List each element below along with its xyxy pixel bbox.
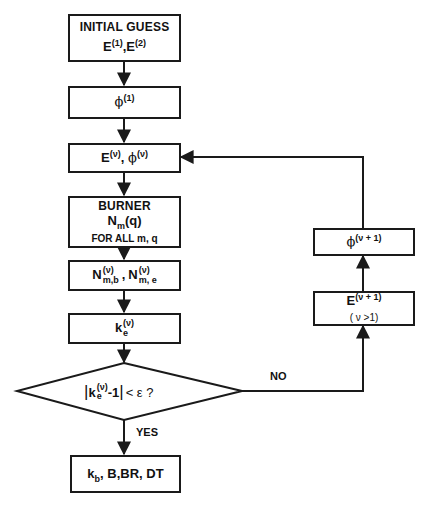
k-e-label: k (ν) e	[115, 319, 134, 338]
e2-base: E	[126, 39, 135, 54]
phi-sup: (ν + 1)	[355, 233, 381, 243]
compare: < ε ?	[126, 385, 154, 400]
burner-note: FOR ALL m, q	[91, 233, 157, 244]
k-indices: (ν) e	[97, 383, 108, 402]
k-sub: e	[123, 329, 134, 338]
e2-sup: (2)	[135, 38, 146, 48]
node-phi-1: ϕ(1)	[68, 86, 181, 119]
burner-n: Nm(q)	[107, 214, 141, 228]
n-sub: m	[117, 221, 125, 231]
n2-sub: m, e	[139, 276, 157, 285]
e-base: E	[101, 150, 110, 165]
node-result: kb, B,BR, DT	[70, 455, 181, 493]
result-rest: , B,BR, DT	[100, 466, 164, 481]
node-n-values: N (ν) m,b , N (ν) m, e	[68, 260, 181, 291]
e-base: E	[347, 293, 356, 308]
initial-guess-values: E(1),E(2)	[103, 40, 146, 54]
k-base: k	[115, 321, 122, 335]
phi-sup: (1)	[123, 93, 134, 103]
sep: ,	[122, 268, 126, 282]
arrow-no-branch	[242, 326, 363, 391]
n-values-label: N (ν) m,b , N (ν) m, e	[92, 266, 156, 285]
k-base: k	[88, 385, 95, 400]
arrow-feedback-loop	[181, 157, 363, 228]
n-base: N	[107, 213, 116, 228]
result-label: kb, B,BR, DT	[87, 467, 163, 481]
k-sub: e	[97, 392, 108, 401]
phi-1-label: ϕ(1)	[115, 95, 135, 109]
node-burner: BURNER Nm(q) FOR ALL m, q	[68, 196, 181, 248]
e-next-label: E(ν + 1)	[347, 294, 382, 308]
sep: ,	[121, 150, 125, 165]
initial-guess-title: INITIAL GUESS	[80, 21, 170, 34]
e-phi-nu-label: E(ν), ϕ(ν)	[101, 151, 148, 165]
node-e-phi-nu: E(ν), ϕ(ν)	[68, 143, 181, 173]
n2-base: N	[128, 268, 137, 282]
decision-condition: | k (ν) e -1 | < ε ?	[84, 382, 153, 402]
node-k-e: k (ν) e	[68, 313, 181, 344]
k-base: k	[87, 466, 94, 481]
node-initial-guess: INITIAL GUESS E(1),E(2)	[68, 14, 181, 62]
phi-base: ϕ	[346, 234, 355, 249]
n-arg: (q)	[125, 213, 142, 228]
edge-label-yes: YES	[136, 426, 158, 438]
e-sup: (ν + 1)	[355, 292, 381, 302]
phi-sup: (ν)	[137, 149, 148, 159]
phi-base: ϕ	[128, 150, 137, 165]
node-phi-next: ϕ(ν + 1)	[313, 228, 415, 256]
node-e-next: E(ν + 1) ( ν >1)	[313, 291, 415, 326]
burner-title: BURNER	[98, 200, 151, 213]
n2-indices: (ν) m, e	[139, 266, 157, 285]
k-indices: (ν) e	[123, 319, 134, 338]
e1-base: E	[103, 39, 112, 54]
n1-base: N	[92, 268, 101, 282]
n1-sub: m,b	[103, 276, 119, 285]
abs-close: |	[119, 382, 123, 402]
e-sup: (ν)	[110, 149, 121, 159]
e1-sup: (1)	[112, 38, 123, 48]
phi-next-label: ϕ(ν + 1)	[346, 235, 381, 249]
n1-indices: (ν) m,b	[103, 266, 119, 285]
edge-label-no: NO	[270, 370, 287, 382]
e-next-condition: ( ν >1)	[350, 312, 379, 323]
minus-one: -1	[108, 385, 120, 400]
